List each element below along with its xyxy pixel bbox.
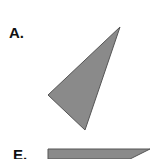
figures-canvas [0,0,153,159]
triangle-a-shape [48,27,120,130]
shape-e [48,149,150,159]
